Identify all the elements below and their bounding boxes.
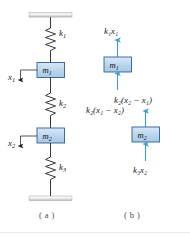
label-k3: k3 [59,163,66,172]
label-fbd-mass-m1: m1 [110,61,119,70]
spring-k2 [46,78,56,129]
label-mass-m2: m2 [43,132,52,141]
displacement-x2-marker [21,136,38,146]
spring-k1 [46,17,56,62]
displacement-x1-marker [21,70,38,80]
label-k2: k2 [59,99,66,108]
label-mass-m1: m1 [43,66,52,75]
label-x2: x2 [8,139,15,148]
label-force-k2-x2-x1: k₂(x₂ − x₁) [114,96,152,105]
bottom-support [29,196,72,201]
caption-panel-b: ( b ) [124,210,140,220]
label-force-k1x1: k₁x₁ [104,27,118,36]
label-fbd-mass-m2: m2 [138,131,147,140]
label-k1: k1 [59,29,66,38]
label-force-k2-x1-x2: k₂(x₁ − x₂) [86,106,124,115]
spring-k3 [46,143,56,196]
caption-panel-a: ( a ) [39,210,55,220]
spring-mass-figure [0,0,190,237]
label-force-k3x2: k₃x₂ [133,166,147,175]
label-x1: x1 [8,73,15,82]
top-support [29,13,72,18]
